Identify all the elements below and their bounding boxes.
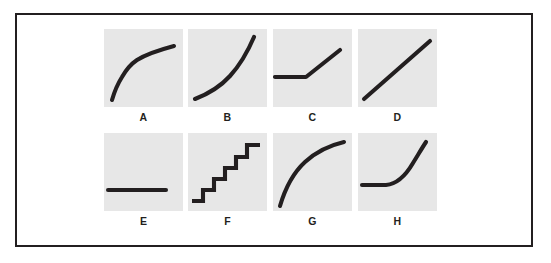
panel-e: E bbox=[104, 133, 183, 227]
panel-f-plot bbox=[188, 133, 267, 211]
panel-e-plot bbox=[104, 133, 183, 211]
panel-h-curve-svg bbox=[358, 133, 437, 211]
curve-path-d bbox=[364, 41, 430, 99]
panel-g: G bbox=[273, 133, 352, 227]
panel-a-curve-svg bbox=[104, 29, 183, 107]
curve-path-h bbox=[362, 142, 426, 185]
panel-b: B bbox=[188, 29, 267, 123]
panel-d-plot bbox=[358, 29, 437, 107]
curve-path-g bbox=[280, 142, 344, 206]
panel-label-b: B bbox=[188, 111, 267, 123]
panel-d-curve-svg bbox=[358, 29, 437, 107]
panel-a: A bbox=[104, 29, 183, 123]
panel-f-curve-svg bbox=[188, 133, 267, 211]
curve-path-f bbox=[192, 145, 260, 201]
panel-c-curve-svg bbox=[273, 29, 352, 107]
panel-e-curve-svg bbox=[104, 133, 183, 211]
panel-grid: A B C bbox=[17, 15, 531, 245]
panel-h: H bbox=[358, 133, 437, 227]
panel-label-d: D bbox=[358, 111, 437, 123]
curve-path-b bbox=[195, 37, 254, 99]
panel-g-curve-svg bbox=[273, 133, 352, 211]
panel-label-h: H bbox=[358, 215, 437, 227]
panel-b-curve-svg bbox=[188, 29, 267, 107]
panel-a-plot bbox=[104, 29, 183, 107]
panel-g-plot bbox=[273, 133, 352, 211]
panel-h-plot bbox=[358, 133, 437, 211]
panel-c-plot bbox=[273, 29, 352, 107]
panel-b-plot bbox=[188, 29, 267, 107]
panel-c: C bbox=[273, 29, 352, 123]
panel-label-a: A bbox=[104, 111, 183, 123]
figure-frame-border: A B C bbox=[15, 13, 533, 247]
figure-root: A B C bbox=[0, 0, 551, 263]
panel-label-e: E bbox=[104, 215, 183, 227]
panel-d: D bbox=[358, 29, 437, 123]
panel-label-g: G bbox=[273, 215, 352, 227]
curve-path-c bbox=[275, 50, 340, 77]
curve-path-a bbox=[112, 46, 174, 100]
panel-f: F bbox=[188, 133, 267, 227]
panel-label-c: C bbox=[273, 111, 352, 123]
panel-label-f: F bbox=[188, 215, 267, 227]
